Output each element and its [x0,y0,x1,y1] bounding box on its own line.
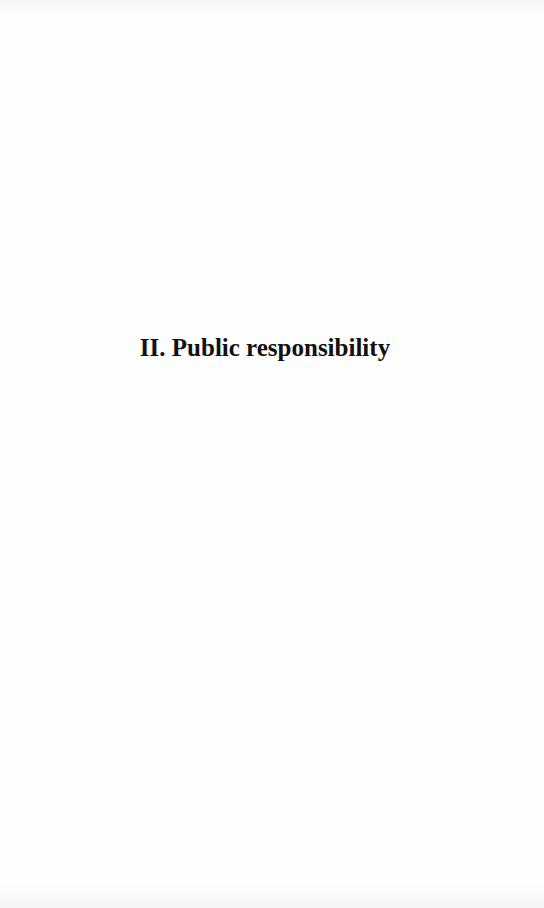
document-page: II. Public responsibility [0,0,544,908]
section-title: II. Public responsibility [0,330,530,366]
